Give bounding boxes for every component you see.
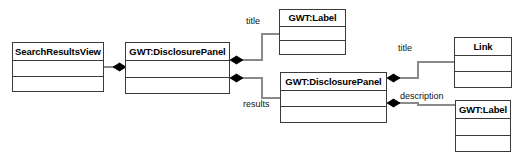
composition-diamond-panel1-title [230,56,243,64]
class-attributes-compartment [456,119,510,136]
assoc-line-panel2-title [396,62,454,78]
class-name: GWT:Label [280,10,345,27]
association-label-results: results [243,100,270,109]
association-label-title-link: title [398,44,412,53]
class-name: GWT:DisclosurePanel [281,73,386,91]
class-name: SearchResultsView [13,43,103,61]
class-attributes-compartment [455,56,511,72]
composition-diamond-panel2-title [387,74,400,82]
class-operations-compartment [281,107,386,122]
class-attributes-compartment [13,61,103,77]
class-operations-compartment [455,72,511,87]
uml-class-gwt-disclosurepanel-1[interactable]: GWT:DisclosurePanel [125,42,230,94]
assoc-line-panel1-title [239,34,279,60]
class-attributes-compartment [281,91,386,107]
association-label-description: description [400,92,444,101]
class-operations-compartment [13,77,103,92]
composition-diamond-panel1-results [230,74,243,82]
assoc-line-panel2-description [396,103,455,105]
uml-class-diagram: SearchResultsView GWT:DisclosurePanel GW… [0,0,521,159]
class-name: GWT:DisclosurePanel [126,43,229,61]
class-operations-compartment [280,41,345,54]
class-attributes-compartment [126,61,229,78]
uml-class-gwt-label-bottom[interactable]: GWT:Label [455,100,511,152]
uml-class-gwt-label-top[interactable]: GWT:Label [279,9,346,55]
uml-class-search-results-view[interactable]: SearchResultsView [12,42,104,92]
uml-class-gwt-disclosurepanel-2[interactable]: GWT:DisclosurePanel [280,72,387,123]
class-attributes-compartment [280,27,345,41]
composition-diamond-panel2-description [387,99,400,107]
assoc-line-panel1-results [239,78,280,98]
class-operations-compartment [456,136,510,152]
class-operations-compartment [126,78,229,94]
association-label-title-top: title [246,17,260,26]
uml-class-link[interactable]: Link [454,37,512,88]
class-name: GWT:Label [456,101,510,119]
class-name: Link [455,38,511,56]
